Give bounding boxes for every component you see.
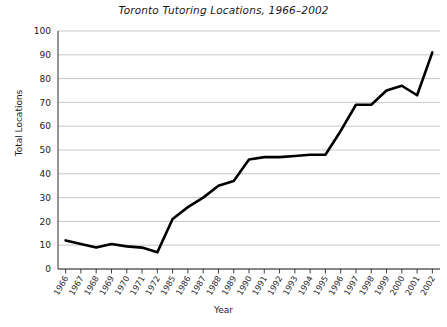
y-tick-label: 50 (40, 145, 52, 155)
y-tick-label: 80 (40, 74, 52, 84)
x-tick-label: 2002 (418, 274, 437, 297)
line-chart-plot: 0102030405060708090100 19661967196819691… (0, 0, 447, 327)
y-tick-label: 100 (34, 26, 51, 36)
x-tick-labels: 1966196719681969197019711972198519861987… (51, 274, 437, 297)
y-tick-label: 60 (40, 121, 52, 131)
chart-figure: Toronto Tutoring Locations, 1966–2002 To… (0, 0, 447, 327)
y-tick-label: 70 (40, 98, 52, 108)
y-tick-label: 90 (40, 50, 52, 60)
y-tick-label: 30 (40, 193, 52, 203)
gridlines (58, 31, 440, 269)
y-tick-labels: 0102030405060708090100 (34, 26, 51, 274)
y-tick-label: 20 (40, 217, 52, 227)
y-tick-label: 40 (40, 169, 52, 179)
y-tick-label: 10 (40, 240, 52, 250)
y-tick-label: 0 (45, 264, 51, 274)
x-tick-marks (66, 269, 433, 274)
data-series-line (66, 52, 433, 252)
